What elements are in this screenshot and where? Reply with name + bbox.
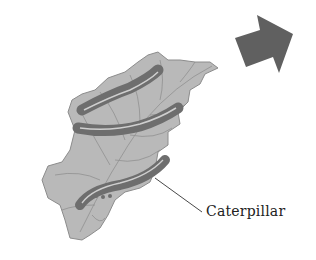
arrow-right-icon [235,15,293,73]
caterpillar-diagram: Caterpillar [0,0,316,260]
caterpillar-leader-line [155,178,202,212]
diagram-canvas [0,0,316,260]
caterpillar-label: Caterpillar [206,203,285,219]
leaf-illustration [42,52,218,240]
